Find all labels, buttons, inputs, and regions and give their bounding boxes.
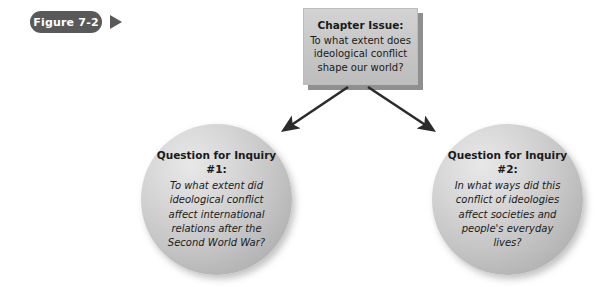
inquiry-1-line: relations after the <box>171 222 261 236</box>
inquiry-1-title: Question for Inquiry <box>157 149 276 163</box>
chapter-issue-title: Chapter Issue: <box>318 19 404 32</box>
inquiry-1-line: To what extent did <box>170 179 263 193</box>
chapter-issue-line: ideological conflict <box>314 47 407 60</box>
arrow-to-inquiry-2 <box>368 87 433 130</box>
inquiry-1-line: ideological conflict <box>170 193 264 207</box>
inquiry-2-line: conflict of ideologies <box>456 193 559 207</box>
chapter-issue-box: Chapter Issue: To what extent does ideol… <box>303 8 418 85</box>
inquiry-2-line: In what ways did this <box>455 179 561 193</box>
inquiry-1-line: affect international <box>169 208 265 222</box>
inquiry-1-line: Second World War? <box>168 236 265 250</box>
inquiry-2-number: #2: <box>497 163 517 177</box>
inquiry-2-line: lives? <box>493 236 521 250</box>
chapter-issue-line: shape our world? <box>318 61 404 74</box>
figure-label-pill: Figure 7-2 <box>30 11 102 33</box>
inquiry-1-number: #1: <box>206 163 226 177</box>
chapter-issue-line: To what extent does <box>310 34 411 47</box>
inquiry-circle-1: Question for Inquiry #1: To what extent … <box>141 124 292 275</box>
figure-diagram: Figure 7-2 Chapter Issue: To what extent… <box>0 0 611 287</box>
arrow-to-inquiry-1 <box>284 87 348 130</box>
play-triangle-icon <box>110 15 122 29</box>
inquiry-2-line: affect societies and <box>459 208 557 222</box>
inquiry-2-line: people's everyday <box>462 222 554 236</box>
inquiry-circle-2: Question for Inquiry #2: In what ways di… <box>432 124 583 275</box>
inquiry-2-title: Question for Inquiry <box>448 149 567 163</box>
